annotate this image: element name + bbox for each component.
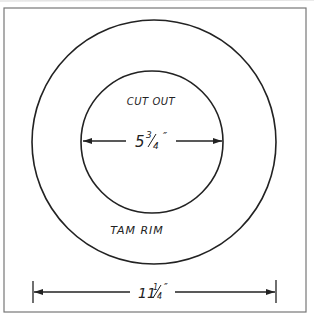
inner-dimension-label: 5 3 4 ″ [135,130,168,151]
inner-circle [81,71,223,213]
cut-out-label: CUT OUT [127,96,176,107]
outer-dim-denominator: 4 [157,292,162,301]
inner-dim-whole: 5 [135,133,145,151]
outer-dim-unit: ″ [164,282,168,293]
tam-rim-label: TAM RIM [110,224,164,237]
rim-template-diagram: CUT OUT 5 3 4 ″ TAM RIM 11 1 4 ″ [0,0,314,319]
inner-dim-numerator: 3 [146,130,152,140]
inner-dim-unit: ″ [163,130,168,143]
inner-dim-denominator: 4 [153,141,159,151]
page-edge [0,0,314,1]
frame-border [4,8,306,312]
outer-dimension-label: 11 1 4 ″ [138,282,168,301]
